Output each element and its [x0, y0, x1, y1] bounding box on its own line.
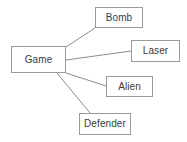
node-defender-label: Defender: [84, 119, 126, 129]
node-bomb[interactable]: Bomb: [95, 7, 143, 28]
node-game-label: Game: [25, 55, 53, 65]
diagram-canvas: Game Bomb Laser Alien Defender: [0, 0, 187, 142]
node-bomb-label: Bomb: [106, 13, 133, 23]
node-alien[interactable]: Alien: [106, 76, 153, 97]
node-game[interactable]: Game: [11, 46, 66, 73]
node-laser[interactable]: Laser: [131, 40, 180, 62]
node-alien-label: Alien: [118, 82, 141, 92]
node-laser-label: Laser: [143, 46, 169, 56]
edge-game-laser: [66, 51, 131, 60]
edge-game-alien: [66, 73, 106, 86]
node-defender[interactable]: Defender: [79, 113, 131, 135]
edge-game-bomb: [66, 28, 95, 47]
